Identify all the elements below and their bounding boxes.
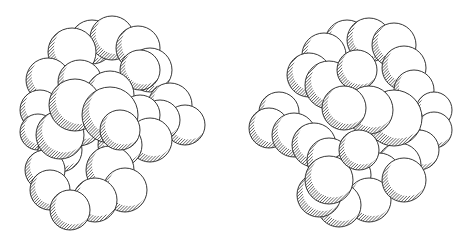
molecule-model-right xyxy=(229,0,458,246)
stereo-left-view xyxy=(0,0,229,246)
stereo-right-view xyxy=(229,0,458,246)
molecule-model-left xyxy=(0,0,229,246)
